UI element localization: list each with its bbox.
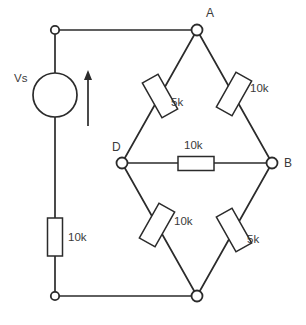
voltage-source-symbol	[33, 73, 77, 117]
resistor-source-body	[48, 218, 63, 256]
resistor-db-body	[178, 157, 214, 171]
resistor-source-label: 10k	[68, 231, 87, 243]
node-b-label: B	[284, 156, 292, 170]
node-c-terminal	[192, 291, 203, 302]
node-d-label: D	[112, 140, 121, 154]
circuit-diagram: Vs 10k 5k 10k 10k 10k 5k A B D	[0, 0, 306, 325]
resistor-ab-label: 10k	[250, 82, 269, 94]
node-a-label: A	[206, 6, 214, 20]
resistor-ab-body	[216, 72, 251, 116]
node-b-terminal	[267, 158, 278, 169]
resistor-bc-body	[216, 208, 251, 252]
resistor-ad-label: 5k	[171, 96, 183, 108]
resistor-db-label: 10k	[184, 139, 203, 151]
circuit-canvas: Vs 10k 5k 10k 10k 10k 5k A B D	[0, 0, 306, 325]
node-d-terminal	[117, 158, 128, 169]
node-top-left-terminal	[51, 26, 59, 34]
resistor-dc-body	[139, 203, 174, 247]
voltage-source-label: Vs	[14, 72, 28, 84]
node-a-terminal	[192, 25, 203, 36]
resistor-bc-label: 5k	[247, 233, 259, 245]
node-bottom-left-terminal	[51, 292, 59, 300]
current-arrow-head-icon	[84, 70, 92, 80]
resistor-dc-label: 10k	[174, 215, 193, 227]
